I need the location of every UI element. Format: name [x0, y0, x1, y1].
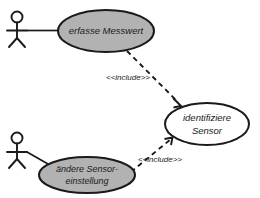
use-case-aendere-sensoreinstellung[interactable]: ändere Sensor- einstellung	[39, 157, 135, 193]
actor-leg-right-icon	[17, 38, 25, 47]
actor-head-icon	[12, 133, 23, 144]
use-case-label-line-1: ändere Sensor-	[56, 164, 118, 174]
diagram-canvas: erfasse Messwert identifiziere Sensor än…	[0, 0, 260, 198]
use-case-label-line-2: einstellung	[65, 176, 108, 186]
use-case-identifiziere-sensor[interactable]: identifiziere Sensor	[165, 103, 249, 145]
use-case-ellipse	[39, 157, 135, 193]
use-case-label-line-2: Sensor	[192, 125, 223, 136]
uml-use-case-diagram: erfasse Messwert identifiziere Sensor än…	[0, 0, 260, 198]
use-case-label: erfasse Messwert	[69, 25, 144, 36]
actor-leg-right-icon	[17, 159, 25, 168]
actor-leg-left-icon	[9, 159, 17, 168]
include-arrowhead-top	[173, 98, 181, 108]
use-case-erfasse-messwert[interactable]: erfasse Messwert	[58, 10, 154, 52]
use-case-label-line-1: identifiziere	[183, 112, 231, 123]
actor-head-icon	[12, 12, 23, 23]
actor-leg-left-icon	[9, 38, 17, 47]
actor-stick-figure-bottom[interactable]	[7, 133, 27, 169]
actor-stick-figure-top[interactable]	[7, 12, 27, 48]
include-stereotype-top: <<include>>	[106, 73, 150, 82]
include-stereotype-bottom: <<include>>	[138, 155, 182, 164]
